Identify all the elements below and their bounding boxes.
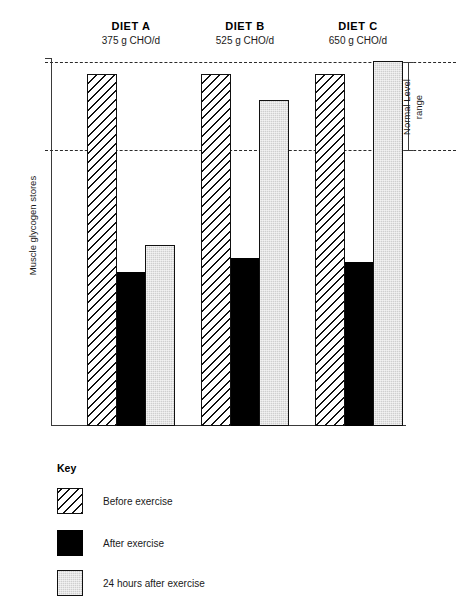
group-header-diet-c: DIET C 650 g CHO/d: [298, 20, 418, 46]
group-name-diet-c: DIET C: [298, 20, 418, 32]
key-swatch-hatch-icon: [57, 488, 83, 514]
bar-diet-a-after-exercise: [117, 272, 145, 426]
group-name-diet-b: DIET B: [185, 20, 305, 32]
group-name-diet-a: DIET A: [71, 20, 191, 32]
bar-diet-c-after-exercise: [345, 262, 373, 426]
key-swatch-gray-icon: [57, 570, 83, 596]
key-title: Key: [57, 462, 76, 474]
bar-diet-c-before-exercise: [315, 74, 345, 426]
normal-range-label-line2: range: [413, 95, 425, 119]
group-header-diet-a: DIET A 375 g CHO/d: [71, 20, 191, 46]
bar-diet-a-24h-after-exercise: [145, 245, 175, 426]
key-label-before-exercise: Before exercise: [103, 496, 172, 507]
bar-diet-b-24h-after-exercise: [259, 100, 289, 426]
y-axis-line: [51, 58, 52, 426]
key-item-before-exercise: Before exercise: [57, 488, 172, 514]
key-item-24h-after-exercise: 24 hours after exercise: [57, 570, 205, 596]
key-label-after-exercise: After exercise: [103, 538, 164, 549]
bar-diet-b-after-exercise: [231, 258, 259, 426]
group-sub-diet-a: 375 g CHO/d: [71, 35, 191, 46]
key-swatch-black-icon: [57, 530, 83, 556]
group-sub-diet-b: 525 g CHO/d: [185, 35, 305, 46]
bar-diet-c-24h-after-exercise: [373, 61, 403, 426]
key-label-24h-after-exercise: 24 hours after exercise: [103, 578, 205, 589]
bar-diet-b-before-exercise: [201, 74, 231, 426]
y-axis-top-tick: [45, 58, 52, 59]
y-axis-title: Muscle glycogen stores: [27, 156, 38, 296]
group-sub-diet-c: 650 g CHO/d: [298, 35, 418, 46]
bar-diet-a-before-exercise: [87, 74, 117, 426]
key-item-after-exercise: After exercise: [57, 530, 164, 556]
group-header-diet-b: DIET B 525 g CHO/d: [185, 20, 305, 46]
